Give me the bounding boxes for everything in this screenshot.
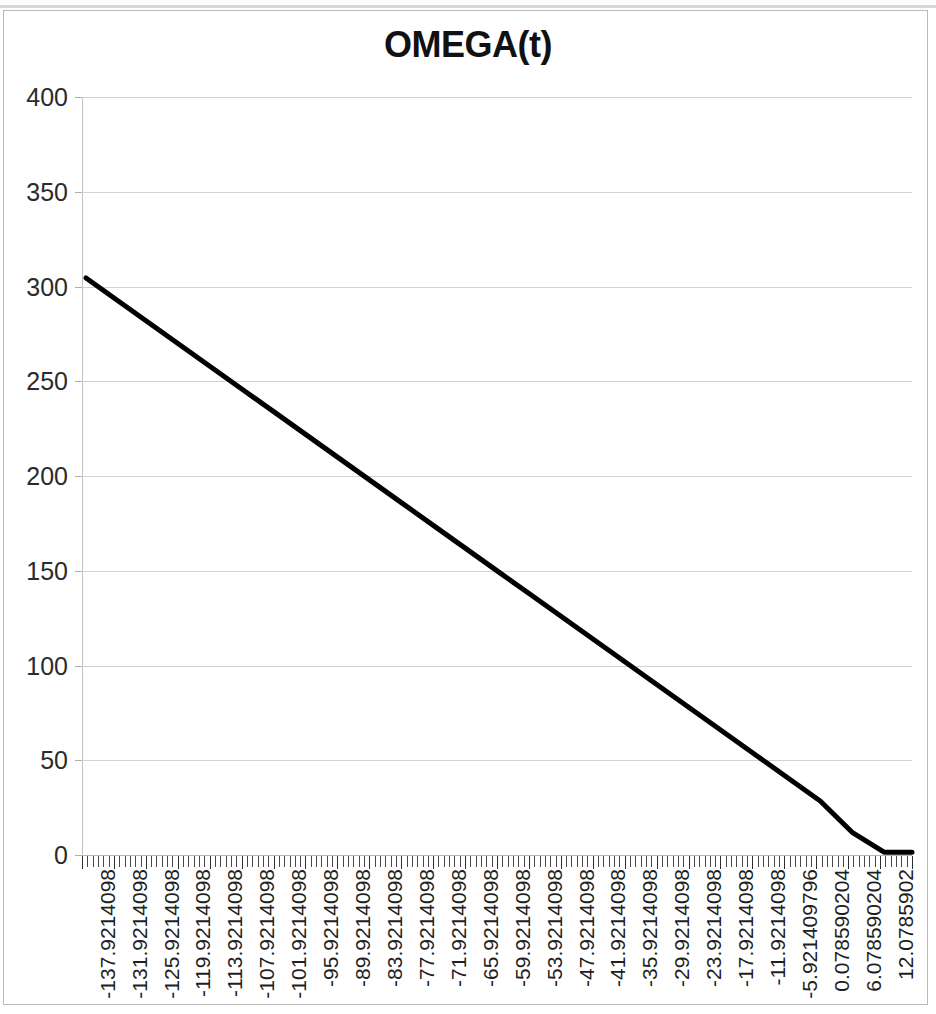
x-tick-minor [614, 856, 615, 867]
x-tick-minor [130, 856, 131, 867]
x-tick-minor [252, 856, 253, 867]
x-tick-minor [215, 856, 216, 867]
x-tick-minor [220, 856, 221, 867]
x-tick-minor [731, 856, 732, 867]
x-axis-label-text: -35.9214098 [639, 869, 660, 987]
x-tick-major [561, 856, 562, 869]
x-tick-minor [742, 856, 743, 867]
x-tick-minor [87, 856, 88, 867]
x-tick-minor [412, 856, 413, 867]
x-tick-minor [460, 856, 461, 867]
x-tick-minor [715, 856, 716, 867]
x-tick-minor [556, 856, 557, 867]
x-tick-minor [231, 856, 232, 867]
plot-area [82, 97, 912, 855]
x-tick-minor [800, 856, 801, 867]
x-tick-minor [726, 856, 727, 867]
x-tick-minor [609, 856, 610, 867]
x-tick-minor [795, 856, 796, 867]
x-tick-minor [811, 856, 812, 867]
x-tick-minor [710, 856, 711, 867]
x-tick-minor [316, 856, 317, 867]
x-tick-minor [838, 856, 839, 867]
x-tick-minor [502, 856, 503, 867]
x-tick-minor [869, 856, 870, 867]
x-tick-major [178, 856, 179, 869]
x-tick-minor [481, 856, 482, 867]
x-axis-label-text: -77.9214098 [416, 869, 437, 987]
x-tick-minor [747, 856, 748, 867]
x-tick-minor [391, 856, 392, 867]
x-tick-minor [396, 856, 397, 867]
x-axis-label: -107.9214098 [249, 869, 270, 999]
x-tick-minor [343, 856, 344, 867]
x-tick-minor [806, 856, 807, 867]
y-tick-150 [75, 571, 82, 572]
x-tick-minor [534, 856, 535, 867]
x-axis-label-text: -101.9214098 [288, 869, 309, 999]
x-tick-minor [907, 856, 908, 867]
x-tick-minor [875, 856, 876, 867]
x-axis-label: 6.078590204 [856, 869, 877, 992]
y-tick-400 [75, 97, 82, 98]
x-tick-major [880, 856, 881, 869]
x-axis-label: -29.9214098 [664, 869, 685, 987]
y-tick-50 [75, 760, 82, 761]
y-axis-label: 250 [8, 367, 68, 396]
x-tick-minor [598, 856, 599, 867]
x-tick-minor [449, 856, 450, 867]
x-axis-label: -77.9214098 [409, 869, 430, 987]
x-tick-minor [135, 856, 136, 867]
x-tick-minor [768, 856, 769, 867]
x-axis-label: -95.9214098 [313, 869, 334, 987]
y-tick-250 [75, 381, 82, 382]
x-tick-minor [295, 856, 296, 867]
x-tick-minor [864, 856, 865, 867]
x-tick-major [210, 856, 211, 869]
x-axis-label: -119.9214098 [185, 869, 206, 997]
x-axis-label: -5.921409796 [792, 869, 813, 999]
x-tick-minor [444, 856, 445, 867]
x-tick-minor [311, 856, 312, 867]
x-tick-minor [667, 856, 668, 867]
x-tick-minor [380, 856, 381, 867]
x-tick-minor [683, 856, 684, 867]
x-tick-minor [119, 856, 120, 867]
x-tick-minor [513, 856, 514, 867]
x-tick-minor [204, 856, 205, 867]
y-tick-100 [75, 666, 82, 667]
x-tick-minor [859, 856, 860, 867]
x-tick-minor [843, 856, 844, 867]
x-tick-major [720, 856, 721, 869]
x-tick-minor [470, 856, 471, 867]
x-tick-minor [194, 856, 195, 867]
x-tick-minor [630, 856, 631, 867]
x-axis-label: -71.9214098 [441, 869, 462, 987]
x-axis-label-text: -41.9214098 [607, 869, 628, 987]
x-axis-label: 12.0785902 [888, 869, 909, 980]
x-tick-minor [822, 856, 823, 867]
x-tick-minor [332, 856, 333, 867]
x-axis-label: -83.9214098 [377, 869, 398, 987]
x-axis-label-text: -131.9214098 [129, 869, 150, 999]
x-tick-major [752, 856, 753, 869]
x-tick-minor [582, 856, 583, 867]
x-tick-minor [167, 856, 168, 867]
x-tick-minor [508, 856, 509, 867]
x-axis-label-text: 0.078590204 [831, 869, 852, 992]
x-axis-label-text: -119.9214098 [192, 869, 213, 997]
x-axis-label-text: -137.9214098 [97, 869, 118, 999]
x-tick-minor [603, 856, 604, 867]
x-tick-minor [417, 856, 418, 867]
x-tick-minor [486, 856, 487, 867]
x-tick-minor [103, 856, 104, 867]
x-axis-label-text: -107.9214098 [256, 869, 277, 999]
x-tick-minor [763, 856, 764, 867]
y-tick-350 [75, 192, 82, 193]
x-tick-minor [646, 856, 647, 867]
x-tick-minor [901, 856, 902, 867]
x-axis-label-text: -5.921409796 [799, 869, 820, 999]
x-tick-minor [476, 856, 477, 867]
x-tick-minor [199, 856, 200, 867]
x-axis-label: -35.9214098 [632, 869, 653, 987]
